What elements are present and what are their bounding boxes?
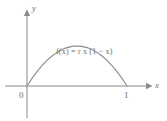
origin-tick-label: 0 (19, 91, 24, 100)
x-axis-label: x (155, 81, 159, 90)
y-axis-label: y (32, 4, 36, 13)
plot-canvas (0, 0, 167, 121)
axes-group (5, 16, 146, 118)
function-formula-label: f(x) = r x (1 − x) (56, 48, 113, 56)
function-plot-figure: y x 0 1 f(x) = r x (1 − x) (0, 0, 167, 121)
x-axis-arrowhead (146, 83, 153, 89)
y-axis-arrowhead (24, 10, 30, 17)
x-tick-label-one: 1 (124, 91, 129, 100)
